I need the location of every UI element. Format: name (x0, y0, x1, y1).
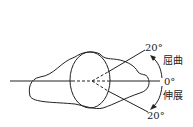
center-oval (70, 52, 110, 108)
extension-angle-label: 20° (147, 111, 165, 121)
neutral-angle-label: 0° (164, 77, 175, 87)
outer-outline (29, 52, 149, 109)
extension-arc-arrow (153, 86, 162, 107)
flexion-angle-label: 20° (145, 43, 163, 53)
extension-line-dashed (92, 81, 108, 91)
extension-line (108, 91, 148, 112)
flexion-line-dashed (92, 72, 108, 81)
flexion-line (108, 50, 145, 72)
flexion-label: 屈曲 (163, 56, 183, 66)
extension-label: 伸展 (163, 91, 183, 101)
joint-range-diagram: 20° 屈曲 0° 伸展 20° (0, 0, 193, 127)
